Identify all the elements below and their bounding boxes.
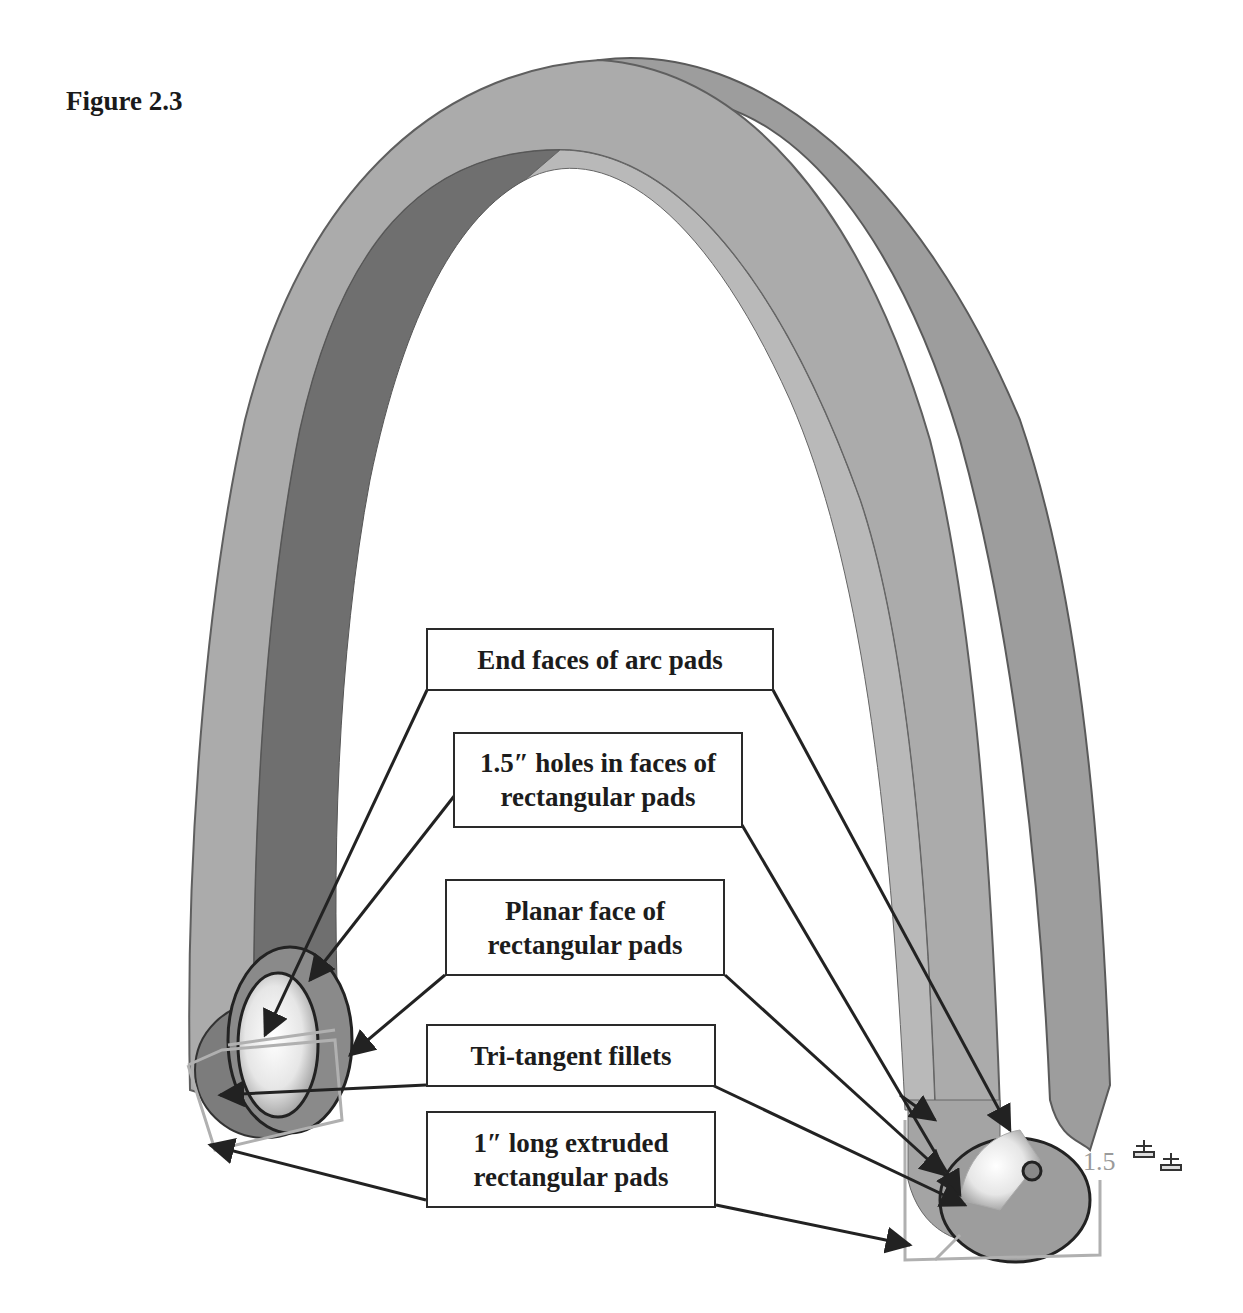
dimension-label: 1.5 (1083, 1147, 1116, 1177)
callout-text: End faces of arc pads (477, 643, 723, 677)
callout-fillets: Tri-tangent fillets (426, 1024, 716, 1087)
callout-extruded-pads: 1″ long extruded rectangular pads (426, 1111, 716, 1208)
right-rectangular-pad (905, 1100, 1181, 1262)
center-point-icon (1023, 1162, 1041, 1180)
callout-text: rectangular pads (501, 780, 696, 814)
callout-planar-face: Planar face of rectangular pads (445, 879, 725, 976)
figure-title: Figure 2.3 (66, 86, 183, 117)
callout-text: 1.5″ holes in faces of (480, 746, 716, 780)
callout-text: Planar face of (505, 894, 665, 928)
callout-text: rectangular pads (474, 1160, 669, 1194)
callout-text: 1″ long extruded (474, 1126, 669, 1160)
constraint-icon (1134, 1140, 1181, 1170)
callout-text: Tri-tangent fillets (470, 1039, 671, 1073)
callout-text: rectangular pads (488, 928, 683, 962)
callout-end-faces: End faces of arc pads (426, 628, 774, 691)
callout-holes: 1.5″ holes in faces of rectangular pads (453, 732, 743, 828)
